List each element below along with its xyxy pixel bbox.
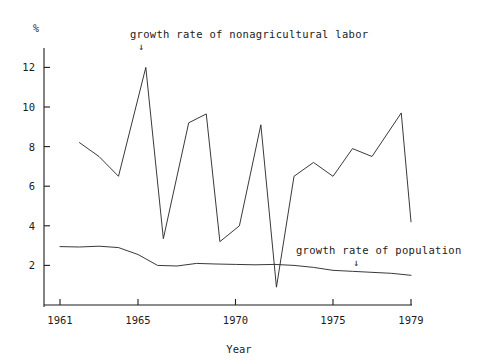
x-axis-tick-label: 1965 xyxy=(125,314,150,326)
y-axis-tick-label: 4 xyxy=(29,220,35,232)
line-chart: 24681012 19611965197019751979 growth rat… xyxy=(0,0,479,364)
annotation-arrow-icon: ↓ xyxy=(138,41,144,52)
annotation-arrow-icon: ↓ xyxy=(353,257,359,268)
x-axis-tick-label: 1979 xyxy=(398,314,423,326)
y-axis-tick-label: 8 xyxy=(29,141,35,153)
chart-figure: 24681012 19611965197019751979 growth rat… xyxy=(0,0,479,364)
annotation-label: growth rate of nonagricultural labor xyxy=(130,28,368,40)
annotation-label: growth rate of population xyxy=(296,244,462,256)
x-axis-title: Year xyxy=(226,343,251,355)
y-axis-tick-label: 6 xyxy=(29,180,35,192)
y-axis-unit-label: % xyxy=(33,23,39,34)
x-axis-tick-label: 1970 xyxy=(223,314,248,326)
y-axis-tick-label: 2 xyxy=(29,259,35,271)
x-axis-tick-label: 1975 xyxy=(320,314,345,326)
x-axis-tick-label: 1961 xyxy=(47,314,72,326)
y-axis-tick-label: 12 xyxy=(22,61,35,73)
y-axis-tick-label: 10 xyxy=(22,101,35,113)
